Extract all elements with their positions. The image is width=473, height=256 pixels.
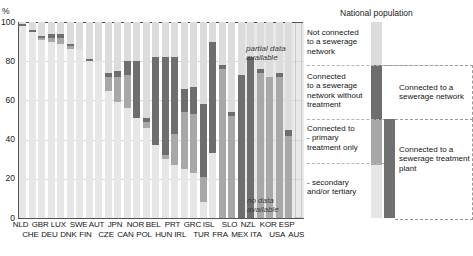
x-label-esp: ESP [279, 220, 295, 229]
x-label-grc: GRC [184, 220, 201, 229]
legend-secondary-line2: and/or tertiary [307, 187, 371, 196]
bar-cze-seg-not_connected [105, 22, 112, 73]
y-tick-60: 60 [1, 96, 15, 104]
x-label-hun: HUN [155, 230, 172, 239]
bar-che [29, 22, 36, 218]
bar-fin-seg-not_connected [86, 22, 93, 59]
bar-fin-seg-secondary [86, 61, 93, 218]
y-axis-ticks: 100 80 60 40 20 0 [0, 0, 15, 256]
x-label-nld: NLD [13, 220, 29, 229]
bar-fra-seg-untreated [219, 65, 226, 69]
x-label-deu: DEU [41, 230, 58, 239]
legend-label-not-connected: Not connected to a sewerage network [307, 28, 369, 56]
x-label-lux: LUX [51, 220, 66, 229]
x-label-isl: ISL [203, 220, 215, 229]
bar-nld-seg-not_connected [19, 22, 26, 24]
bar-nzl-seg-untreated [247, 57, 254, 218]
bar-fra-seg-primary [219, 69, 226, 218]
bar-prt-seg-untreated [171, 57, 178, 133]
legend-not-connected-line2: to a sewerage [307, 37, 369, 46]
y-tick-80: 80 [1, 57, 15, 65]
bar-slo [228, 22, 235, 218]
bar-irl-seg-untreated [181, 89, 188, 113]
bar-fra-seg-not_connected [219, 22, 226, 65]
bar-prt [171, 22, 178, 218]
bar-dnk-seg-primary [67, 46, 74, 50]
legend-bracket-plant-label: Connected to a sewerage treatment plant [399, 145, 473, 173]
bar-grc-seg-untreated [190, 87, 197, 114]
bar-aut [95, 22, 102, 218]
x-label-irl: IRL [174, 230, 186, 239]
bar-grc-seg-not_connected [190, 22, 197, 87]
x-label-kor: KOR [260, 220, 277, 229]
bar-tur-seg-not_connected [200, 22, 207, 104]
legend-untreated-line1: Connected [307, 72, 373, 81]
bar-gbr-seg-not_connected [38, 22, 45, 36]
partial-data-line-1: partial data [246, 44, 302, 53]
bar-pol-seg-primary [143, 122, 150, 128]
x-label-aut: AUT [89, 220, 105, 229]
bar-bel-seg-not_connected [152, 22, 159, 57]
bar-dnk-seg-secondary [67, 49, 74, 218]
bar-prt-seg-primary [171, 134, 178, 165]
bracket-plant-line1: Connected to a [399, 145, 473, 154]
bar-che-seg-secondary [29, 32, 36, 218]
bracket-plant-line3: plant [399, 164, 473, 173]
x-label-gbr: GBR [32, 220, 49, 229]
bar-jpn-seg-secondary [114, 102, 121, 218]
partial-data-annotation: partial data available [246, 44, 302, 62]
legend-primary-line1: Connected to [307, 124, 371, 133]
bar-deu-seg-not_connected [48, 22, 55, 34]
bar-che-seg-not_connected [29, 22, 36, 30]
bar-can-seg-secondary [124, 108, 131, 218]
bar-swe-seg-secondary [76, 49, 83, 218]
bar-isl-seg-untreated [209, 42, 216, 154]
bar-lux-seg-untreated [57, 34, 64, 38]
bar-can [124, 22, 131, 218]
bar-nor-seg-untreated [133, 61, 140, 118]
national-population-title: National population [340, 8, 413, 18]
x-label-jpn: JPN [108, 220, 123, 229]
bar-can-seg-primary [124, 75, 131, 108]
x-label-bel: BEL [146, 220, 161, 229]
natbar-seg-not-connected [371, 22, 382, 65]
x-label-pol: POL [136, 230, 152, 239]
bar-che-seg-untreated [29, 30, 36, 32]
x-label-cze: CZE [98, 230, 114, 239]
x-label-fin: FIN [79, 230, 92, 239]
x-label-dnk: DNK [60, 230, 77, 239]
bar-isl-seg-secondary [209, 153, 216, 218]
y-tick-100: 100 [1, 18, 15, 26]
bar-fin-seg-untreated [86, 59, 93, 61]
bar-pol-seg-secondary [143, 128, 150, 218]
bar-grc [190, 22, 197, 218]
bar-gbr-seg-secondary [38, 40, 45, 218]
partial-data-line-2: available [246, 53, 302, 62]
bar-jpn-seg-untreated [114, 71, 121, 77]
bar-hun [162, 22, 169, 218]
x-label-can: CAN [117, 230, 134, 239]
bar-dnk-seg-not_connected [67, 22, 74, 44]
bar-prt-seg-not_connected [171, 22, 178, 57]
bar-aut-seg-not_connected [95, 22, 102, 61]
bar-deu-seg-secondary [48, 42, 55, 218]
bar-tur-seg-secondary [200, 202, 207, 218]
bar-gbr-seg-primary [38, 38, 45, 40]
x-label-tur: TUR [193, 230, 209, 239]
bar-lux-seg-primary [57, 38, 64, 44]
bar-mex-seg-untreated [238, 75, 245, 218]
bar-cze-seg-untreated [105, 73, 112, 77]
national-population-bar [371, 22, 382, 218]
bar-swe [76, 22, 83, 218]
bar-hun-seg-untreated [162, 57, 169, 155]
x-label-prt: PRT [165, 220, 181, 229]
bar-jpn-seg-not_connected [114, 22, 121, 71]
bar-dnk-seg-untreated [67, 44, 74, 46]
bracket-plant-line2: sewerage treatment [399, 154, 473, 163]
legend-divider-2 [307, 119, 384, 120]
x-label-slo: SLO [222, 220, 238, 229]
bar-hun-seg-secondary [162, 159, 169, 218]
bar-cze-seg-secondary [105, 91, 112, 218]
x-label-swe: SWE [70, 220, 88, 229]
x-label-usa: USA [269, 230, 285, 239]
